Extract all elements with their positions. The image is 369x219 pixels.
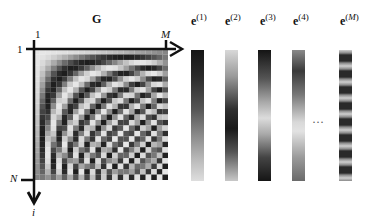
eigenvector-bar-1 (191, 50, 204, 181)
eigenvector-bar-2 (225, 50, 238, 181)
eigenvector-bar-3 (258, 50, 271, 181)
eigenvector-label-4: e(4) (293, 11, 309, 27)
eigenvector-label-M: e(M) (340, 11, 359, 27)
ellipsis: ··· (312, 116, 324, 128)
eigenvector-label-2: e(2) (225, 11, 241, 27)
eigenvector-bar-M (339, 50, 352, 181)
eigenvector-label-1: e(1) (191, 11, 207, 27)
eigenvector-bar-4 (292, 50, 305, 181)
eigenvector-label-3: e(3) (260, 11, 276, 27)
matrix-axes (0, 0, 369, 219)
